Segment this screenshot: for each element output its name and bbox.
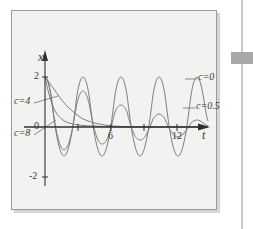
- curve-label-c-4: c=4: [14, 96, 30, 106]
- leader-line-c-4: [34, 96, 58, 103]
- right-edge-tab: [231, 52, 253, 64]
- curve-c-8: [45, 77, 208, 127]
- figure-frame: x t 2 0 -2 6 12 c=0 c=0.5 c=4 c=8: [11, 10, 217, 210]
- oscillation-plot: [12, 11, 215, 208]
- curve-label-c-0: c=0: [198, 72, 214, 82]
- x-axis-label: t: [202, 129, 205, 141]
- screenshot-root: x t 2 0 -2 6 12 c=0 c=0.5 c=4 c=8: [0, 0, 253, 229]
- x-tick-label-6: 6: [108, 131, 113, 141]
- curve-c-0: [45, 77, 208, 156]
- y-tick-label-0: 0: [34, 121, 39, 131]
- curve-c-0-5: [45, 77, 208, 150]
- curve-c-4: [45, 77, 208, 127]
- curve-label-c-0-5: c=0.5: [196, 101, 220, 111]
- y-tick-label-2: 2: [34, 71, 39, 81]
- y-axis-label: x: [38, 51, 43, 63]
- y-tick-label-neg2: -2: [29, 171, 37, 181]
- x-tick-label-12: 12: [172, 131, 182, 141]
- right-edge-strip: [241, 0, 243, 229]
- curve-label-c-8: c=8: [14, 128, 30, 138]
